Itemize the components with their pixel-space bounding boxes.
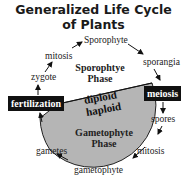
arrow-sporangia-to-meiosis	[154, 69, 160, 80]
label-gametes: gametes	[36, 146, 67, 156]
gametophyte-phase-line2: Phase	[74, 138, 134, 149]
arrow-sporophyte-to-sporangia	[128, 44, 143, 54]
sporophyte-phase-line2: Phase	[72, 73, 128, 84]
gametophyte-phase-line1: Gametophyte	[74, 127, 134, 138]
gametophyte-phase-label: Gametophyte Phase	[74, 127, 134, 149]
label-sporangia: sporangia	[143, 57, 180, 67]
label-zygote: zygote	[31, 72, 56, 82]
meiosis-event-box: meiosis	[144, 86, 181, 101]
label-sporophyte: Sporophyte	[84, 35, 128, 45]
arrow-spores-to-mitosis	[158, 126, 162, 134]
label-mitosis-bottom: mitosis	[137, 146, 164, 156]
label-gametophyte: gametophyte	[74, 165, 123, 175]
arrow-zygote-to-mitosis	[45, 62, 52, 72]
sporophyte-phase-line1: Sporophtye	[72, 62, 128, 73]
label-spores: spores	[151, 114, 175, 124]
arrow-mitosis-to-sporophyte	[72, 42, 82, 48]
sporophyte-phase-label: Sporophtye Phase	[72, 62, 128, 84]
label-mitosis-top: mitosis	[45, 51, 72, 61]
fertilization-event-box: fertilization	[8, 96, 64, 111]
